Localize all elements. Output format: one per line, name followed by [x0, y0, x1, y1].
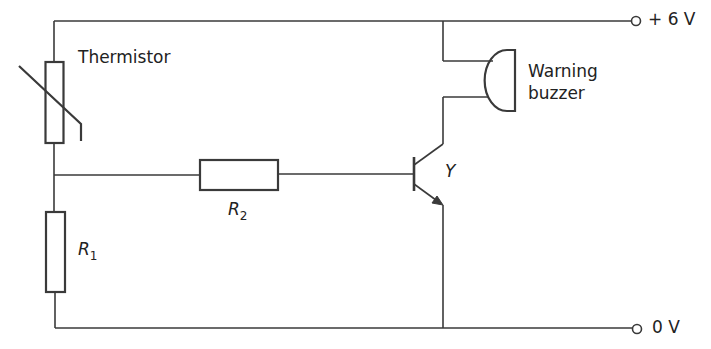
r2-label: R2 — [228, 200, 247, 224]
positive-terminal-icon — [632, 17, 641, 26]
transistor-collector-lead — [414, 144, 443, 165]
ground-supply-label: 0 V — [652, 318, 680, 338]
thermistor-body — [46, 62, 64, 143]
r1-label-sub: 1 — [90, 249, 98, 263]
buzzer-icon — [485, 50, 515, 111]
emitter-arrow-icon — [432, 196, 443, 205]
ground-terminal-icon — [633, 325, 642, 334]
r2-label-main: R — [228, 199, 240, 219]
resistor-r1-body — [46, 212, 65, 292]
resistor-r2-body — [200, 160, 278, 190]
r1-label-main: R — [78, 239, 90, 259]
thermistor-diagonal-icon — [19, 66, 81, 141]
r2-label-sub: 2 — [240, 209, 248, 223]
positive-supply-label: + 6 V — [648, 10, 696, 30]
r1-label: R1 — [78, 240, 97, 264]
buzzer-label-line2: buzzer — [528, 84, 585, 104]
transistor-label: Y — [445, 162, 455, 182]
thermistor-label: Thermistor — [78, 48, 171, 68]
buzzer-label-line1: Warning — [528, 62, 598, 82]
